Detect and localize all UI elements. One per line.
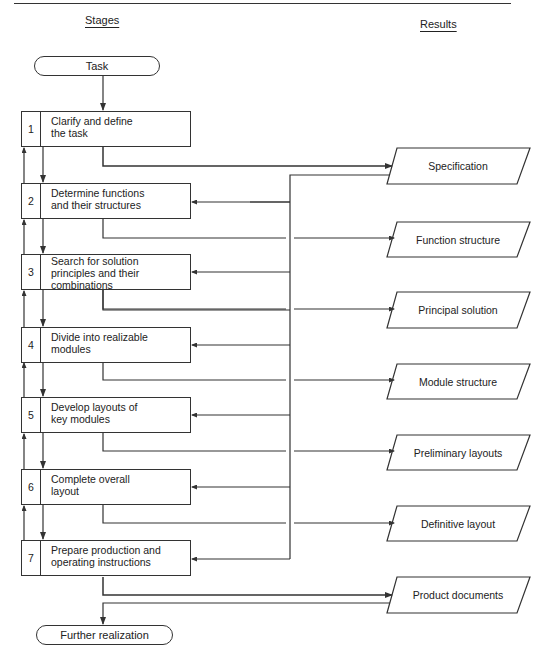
task-start-terminal: Task [34,56,160,76]
stage-number: 6 [22,470,41,504]
stage-6: 6 Complete overall layout [21,469,191,505]
stage-5: 5 Develop layouts of key modules [21,397,191,433]
stage-2: 2 Determine functions and their structur… [21,183,191,219]
result-specification: Specification [393,148,523,184]
result-principal-solution: Principal solution [393,292,523,328]
stage-label: Develop layouts of key modules [41,398,190,432]
result-definitive-layout: Definitive layout [393,506,523,542]
stage-1: 1 Clarify and define the task [21,111,191,147]
result-product-documents: Product documents [393,577,523,613]
stage-4: 4 Divide into realizable modules [21,327,191,363]
result-preliminary-layouts: Preliminary layouts [393,435,523,471]
stage-label: Divide into realizable modules [41,328,190,362]
further-realization-terminal: Further realization [36,625,173,645]
stage-number: 1 [22,112,41,146]
stage-label: Complete overall layout [41,470,190,504]
result-module-structure: Module structure [393,364,523,400]
stage-label: Clarify and define the task [41,112,190,146]
stage-label: Prepare production and operating instruc… [41,541,190,575]
stage-number: 5 [22,398,41,432]
stage-label: Determine functions and their structures [41,184,190,218]
stage-3: 3 Search for solution principles and the… [21,254,191,290]
stage-number: 4 [22,328,41,362]
result-function-structure: Function structure [393,222,523,258]
stage-7: 7 Prepare production and operating instr… [21,540,191,576]
stage-number: 2 [22,184,41,218]
stage-number: 7 [22,541,41,575]
stage-number: 3 [22,255,41,289]
stage-label: Search for solution principles and their… [41,255,190,289]
